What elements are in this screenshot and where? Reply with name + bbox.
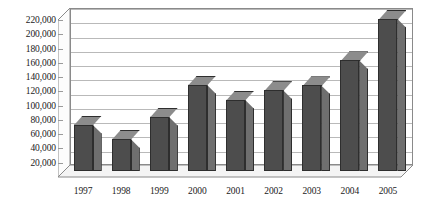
bar-front-face bbox=[340, 60, 359, 171]
bar-front-face bbox=[74, 125, 93, 171]
y-axis: 20,00040,00060,00080,000100,000120,00014… bbox=[0, 0, 58, 216]
bar-front-face bbox=[226, 100, 245, 171]
bar bbox=[188, 85, 207, 171]
x-tick-label: 2004 bbox=[341, 186, 360, 196]
plot-area bbox=[58, 8, 421, 180]
bar-front-face bbox=[188, 85, 207, 171]
bar bbox=[150, 117, 169, 171]
bar-front-face bbox=[378, 19, 397, 171]
y-tick-label: 20,000 bbox=[30, 158, 56, 168]
bar-side-face bbox=[245, 100, 254, 171]
bar-chart: 20,00040,00060,00080,000100,000120,00014… bbox=[0, 0, 429, 216]
x-tick-label: 2000 bbox=[188, 186, 207, 196]
y-tick-label: 180,000 bbox=[26, 44, 56, 54]
y-tick-label: 60,000 bbox=[30, 129, 56, 139]
bar-side-face bbox=[321, 85, 330, 171]
x-tick-label: 1997 bbox=[74, 186, 93, 196]
bar-side-face bbox=[131, 139, 140, 171]
bars-layer bbox=[58, 8, 421, 180]
bar-side-face bbox=[397, 19, 406, 171]
bar bbox=[340, 60, 359, 171]
x-tick-label: 2003 bbox=[302, 186, 321, 196]
bar-side-face bbox=[359, 60, 368, 171]
x-tick-label: 1998 bbox=[112, 186, 131, 196]
bar-front-face bbox=[264, 90, 283, 171]
x-tick-label: 2002 bbox=[264, 186, 283, 196]
bar-side-face bbox=[283, 90, 292, 171]
bar-front-face bbox=[302, 85, 321, 171]
y-tick-label: 140,000 bbox=[26, 72, 56, 82]
bar bbox=[112, 139, 131, 171]
y-tick-label: 220,000 bbox=[26, 15, 56, 25]
x-axis: 199719981999200020012002200320042005 bbox=[58, 186, 421, 206]
x-tick-label: 2001 bbox=[226, 186, 245, 196]
bar-side-face bbox=[93, 125, 102, 171]
x-tick-label: 1999 bbox=[150, 186, 169, 196]
bar bbox=[264, 90, 283, 171]
bar bbox=[302, 85, 321, 171]
y-tick-label: 100,000 bbox=[26, 101, 56, 111]
x-tick-label: 2005 bbox=[379, 186, 398, 196]
bar bbox=[74, 125, 93, 171]
bar-side-face bbox=[169, 117, 178, 171]
y-tick-label: 200,000 bbox=[26, 29, 56, 39]
y-tick-label: 80,000 bbox=[30, 115, 56, 125]
bar-front-face bbox=[112, 139, 131, 171]
y-tick-label: 40,000 bbox=[30, 143, 56, 153]
bar bbox=[226, 100, 245, 171]
bar-front-face bbox=[150, 117, 169, 171]
bar bbox=[378, 19, 397, 171]
y-tick-label: 120,000 bbox=[26, 86, 56, 96]
y-tick-label: 160,000 bbox=[26, 58, 56, 68]
bar-side-face bbox=[207, 85, 216, 171]
